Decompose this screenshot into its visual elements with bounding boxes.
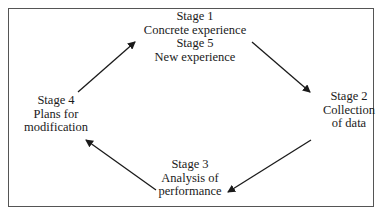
node-stage4-line2: Plans for: [10, 108, 102, 122]
node-stage4-line1: Stage 4: [10, 94, 102, 108]
node-stage1-line1: Stage 1: [120, 10, 270, 24]
node-stage3-line1: Stage 3: [135, 158, 245, 172]
node-stage3: Stage 3 Analysis of performance: [135, 158, 245, 199]
node-stage3-line2: Analysis of: [135, 172, 245, 186]
node-stage1: Stage 1 Concrete experience Stage 5 New …: [120, 10, 270, 64]
node-stage1-line2: Concrete experience: [120, 24, 270, 38]
node-stage2-line1: Stage 2: [318, 90, 380, 104]
node-stage4-line3: modification: [10, 121, 102, 135]
node-stage1-line4: New experience: [120, 51, 270, 65]
node-stage2: Stage 2 Collection of data: [318, 90, 380, 131]
node-stage2-line2: Collection: [318, 104, 380, 118]
node-stage1-line3: Stage 5: [120, 37, 270, 51]
node-stage3-line3: performance: [135, 185, 245, 199]
node-stage2-line3: of data: [318, 117, 380, 131]
node-stage4: Stage 4 Plans for modification: [10, 94, 102, 135]
